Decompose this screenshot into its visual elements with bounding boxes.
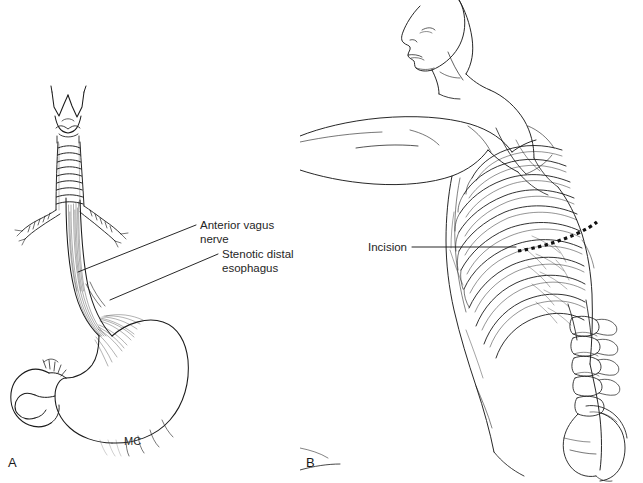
panel-letter-b: B bbox=[306, 456, 315, 469]
intercostal-detail bbox=[524, 236, 571, 325]
hip-thigh-illustration bbox=[300, 386, 524, 476]
label-stenotic-distal-esophagus: Stenotic distal esophagus bbox=[222, 248, 294, 275]
panel-b-illustration bbox=[300, 0, 643, 483]
label-incision: Incision bbox=[368, 241, 407, 255]
duodenum-illustration bbox=[11, 359, 66, 427]
artist-signature: MC bbox=[124, 436, 141, 447]
panel-b: Incision B bbox=[300, 0, 643, 483]
label-anterior-vagus-nerve: Anterior vagus nerve bbox=[200, 219, 300, 246]
neck-illustration bbox=[432, 0, 490, 99]
pelvis-illustration bbox=[563, 405, 627, 481]
leader-line-stenotic bbox=[110, 254, 218, 300]
larynx-illustration bbox=[51, 86, 86, 143]
medical-figure: Anterior vagus nerve Stenotic distal eso… bbox=[0, 0, 643, 483]
stomach-illustration bbox=[35, 320, 188, 456]
panel-a: Anterior vagus nerve Stenotic distal eso… bbox=[0, 0, 300, 483]
panel-letter-a: A bbox=[8, 456, 17, 469]
leader-line-vagus bbox=[78, 225, 196, 272]
vertebrae-illustration bbox=[568, 300, 620, 416]
shoulder-scapula-illustration bbox=[488, 90, 558, 195]
head-profile-illustration bbox=[402, 0, 465, 71]
